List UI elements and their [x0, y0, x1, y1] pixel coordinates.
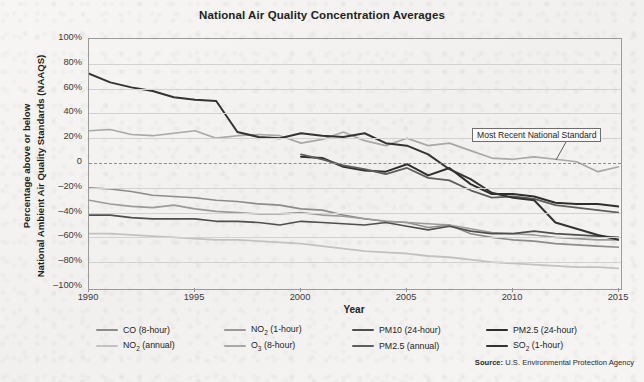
series-line [89, 215, 619, 237]
legend-item[interactable]: NO2 (annual) [96, 340, 224, 352]
legend-label: NO2 (annual) [123, 340, 175, 352]
y-axis-title-line1: Percentage above or below [20, 26, 34, 306]
series-line [89, 234, 619, 269]
source-text: U.S. Environmental Protection Agency [505, 358, 634, 367]
x-axis-tick-label: 1990 [58, 292, 118, 302]
gridline [89, 113, 621, 114]
legend-color-swatch [224, 329, 246, 332]
legend-item[interactable]: CO (8-hour) [96, 325, 224, 335]
x-axis-tick-label: 2005 [376, 292, 436, 302]
legend-label: PM2.5 (annual) [379, 341, 439, 351]
legend-label: PM2.5 (24-hour) [513, 325, 577, 335]
gridline [89, 89, 621, 90]
y-axis-title-line2: National Ambient Air Quality Standards (… [34, 26, 48, 306]
zero-reference-line [89, 163, 621, 164]
legend-item[interactable]: SO2 (1-hour) [486, 340, 616, 352]
gridline [89, 64, 621, 65]
chart-title: National Air Quality Concentration Avera… [0, 9, 644, 21]
gridline [89, 188, 621, 189]
x-axis-tick-label: 2000 [270, 292, 330, 302]
legend-color-swatch [96, 329, 118, 332]
plot-area [88, 38, 622, 290]
x-axis-tick-label: 2015 [588, 292, 644, 302]
x-axis-tick-label: 2010 [482, 292, 542, 302]
gridline [89, 262, 621, 263]
series-line [301, 157, 619, 207]
legend-item[interactable]: O3 (8-hour) [224, 340, 352, 352]
legend-label: PM10 (24-hour) [379, 325, 441, 335]
y-axis-title: Percentage above or below National Ambie… [20, 26, 48, 306]
legend-label: CO (8-hour) [123, 325, 170, 335]
annotation-most-recent-national-standard: Most Recent National Standard [472, 128, 601, 142]
x-axis-tick-label: 1995 [164, 292, 224, 302]
source-note: Source: U.S. Environmental Protection Ag… [475, 358, 634, 367]
x-axis-title: Year [88, 304, 620, 315]
chart-legend: CO (8-hour)NO2 (1-hour)PM10 (24-hour)PM2… [96, 322, 616, 354]
legend-label: SO2 (1-hour) [513, 340, 563, 352]
legend-item[interactable]: PM2.5 (24-hour) [486, 325, 616, 335]
legend-color-swatch [96, 345, 118, 348]
legend-color-swatch [486, 329, 508, 332]
gridline [89, 237, 621, 238]
legend-color-swatch [352, 329, 374, 332]
legend-item[interactable]: PM10 (24-hour) [352, 325, 486, 335]
legend-color-swatch [352, 345, 374, 348]
legend-label: O3 (8-hour) [251, 340, 295, 352]
gridline [89, 213, 621, 214]
source-prefix: Source: [475, 358, 503, 367]
legend-color-swatch [224, 345, 246, 348]
legend-item[interactable]: NO2 (1-hour) [224, 324, 352, 336]
legend-color-swatch [486, 345, 508, 348]
legend-label: NO2 (1-hour) [251, 324, 302, 336]
legend-item[interactable]: PM2.5 (annual) [352, 341, 486, 351]
